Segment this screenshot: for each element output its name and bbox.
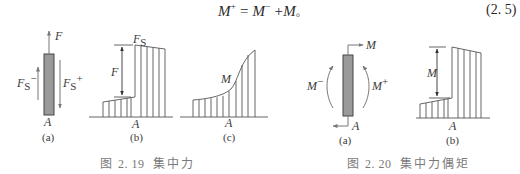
shear-minus-label: FS− bbox=[16, 72, 37, 92]
point-a-label: A bbox=[43, 115, 52, 129]
fig-2-19-c-labels: M A (c) bbox=[220, 72, 236, 144]
caption-figure-2-19: 图2. 19集中力 bbox=[100, 154, 195, 172]
shear-plus-label: FS+ bbox=[62, 72, 83, 92]
moment-outline bbox=[420, 47, 481, 118]
beam-segment bbox=[44, 54, 54, 115]
fig-2-19-a: F FS− FS+ A (a) bbox=[16, 29, 83, 144]
caption-prefix: 图 bbox=[100, 157, 114, 171]
jump-label: F bbox=[110, 65, 119, 79]
moment-minus-label: M− bbox=[306, 75, 323, 93]
panel-label: (b) bbox=[130, 131, 143, 144]
caption-prefix: 图 bbox=[347, 157, 361, 171]
moment-plus-curved-arrow bbox=[363, 66, 369, 108]
shear-axis-label: FS bbox=[132, 32, 146, 48]
point-a-label: A bbox=[351, 119, 360, 133]
caption-figure-2-20: 图2. 20集中力偶矩 bbox=[347, 154, 470, 172]
moment-label: M bbox=[365, 38, 377, 52]
moment-arrow-bottom bbox=[333, 116, 348, 126]
figures-canvas: F FS− FS+ A (a) FS F A (b) bbox=[0, 0, 520, 174]
caption-title: 集中力 bbox=[153, 157, 195, 171]
moment-plus-label: M+ bbox=[371, 75, 388, 93]
fig-2-20-a: M M− M+ A (a) bbox=[306, 38, 388, 147]
shear-outline bbox=[103, 45, 165, 117]
fig-2-19-b-shear-diagram bbox=[89, 45, 173, 117]
beam-segment bbox=[343, 55, 353, 116]
panel-label: (c) bbox=[223, 131, 236, 144]
caption-title: 集中力偶矩 bbox=[400, 157, 470, 171]
fig-2-20-b-labels: M A (b) bbox=[426, 66, 459, 147]
moment-arrow-top bbox=[348, 45, 363, 55]
force-label: F bbox=[54, 29, 63, 43]
moment-minus-curved-arrow bbox=[327, 66, 333, 108]
caption-number: 2. 19 bbox=[118, 157, 145, 171]
panel-label: (a) bbox=[42, 131, 55, 144]
panel-label: (a) bbox=[339, 134, 352, 147]
moment-label: M bbox=[220, 72, 232, 86]
point-a-label: A bbox=[131, 117, 140, 131]
point-a-label: A bbox=[224, 116, 233, 130]
panel-label: (b) bbox=[446, 134, 459, 147]
point-a-label: A bbox=[448, 119, 457, 133]
jump-label: M bbox=[426, 66, 438, 80]
caption-number: 2. 20 bbox=[365, 157, 392, 171]
fig-2-20-b-moment-diagram bbox=[416, 47, 490, 118]
